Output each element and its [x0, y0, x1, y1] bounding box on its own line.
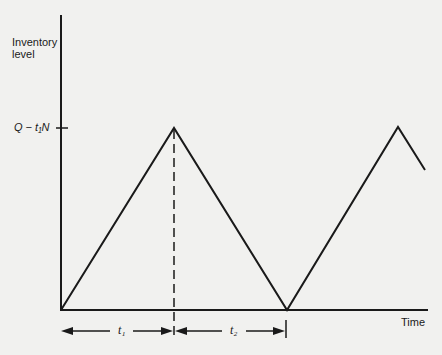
- inventory-line: [61, 127, 425, 310]
- arrowhead-right-icon: [161, 327, 173, 335]
- y-axis-label-line1: Inventory: [12, 36, 57, 48]
- interval-2-label: t₂: [230, 324, 238, 336]
- inventory-diagram: [0, 0, 442, 355]
- arrowhead-left-icon: [175, 327, 187, 335]
- x-axis-label: Time: [401, 316, 425, 328]
- interval-1-label: t₁: [118, 324, 126, 336]
- arrowhead-right-icon: [273, 327, 285, 335]
- y-axis-label-line2: level: [12, 48, 57, 60]
- arrowhead-left-icon: [61, 327, 73, 335]
- y-axis-label: Inventory level: [12, 36, 57, 60]
- y-tick-label: Q − t₁N: [14, 121, 50, 133]
